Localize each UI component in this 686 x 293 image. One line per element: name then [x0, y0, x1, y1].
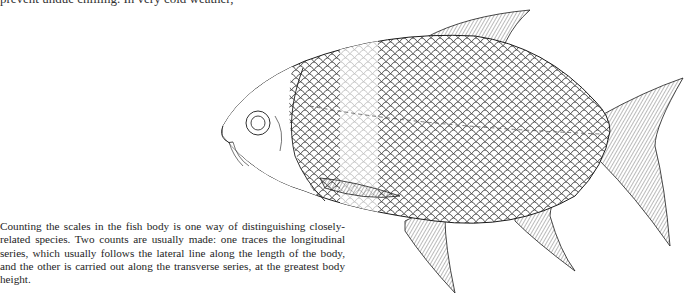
illustration-caption: Counting the scales in the fish body is … [0, 220, 345, 286]
previous-text: prevent undue chilling. In very cold wea… [0, 0, 233, 6]
